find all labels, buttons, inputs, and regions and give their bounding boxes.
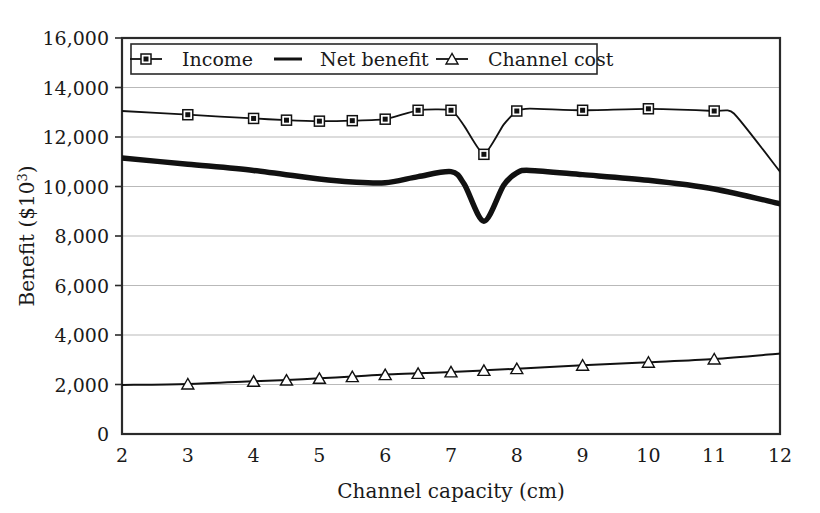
marker-square	[643, 104, 653, 114]
y-tick-label: 6,000	[55, 275, 109, 297]
marker-square-inner	[251, 116, 256, 121]
marker-square-inner	[481, 152, 486, 157]
series-channel-cost	[122, 354, 780, 389]
x-tick-label: 6	[379, 444, 391, 466]
y-tick-label: 16,000	[43, 27, 109, 49]
gridlines	[122, 38, 780, 385]
x-tick-label: 9	[577, 444, 589, 466]
marker-square-inner	[712, 109, 717, 114]
y-axis: 02,0004,0006,0008,00010,00012,00014,0001…	[43, 27, 122, 445]
marker-square-inner	[185, 112, 190, 117]
marker-square	[282, 115, 292, 125]
y-tick-label: 4,000	[55, 324, 109, 346]
y-tick-label: 10,000	[43, 176, 109, 198]
marker-square	[249, 113, 259, 123]
marker-square	[446, 105, 456, 115]
marker-square	[578, 105, 588, 115]
x-tick-label: 8	[511, 444, 523, 466]
y-tick-label: 14,000	[43, 77, 109, 99]
marker-square	[183, 110, 193, 120]
marker-square-inner	[350, 118, 355, 123]
series-net-benefit	[122, 158, 780, 221]
y-tick-label: 2,000	[55, 374, 109, 396]
marker-square	[512, 106, 522, 116]
x-tick-label: 7	[445, 444, 457, 466]
chart-figure: 02,0004,0006,0008,00010,00012,00014,0001…	[0, 0, 820, 513]
series-income-line	[122, 109, 780, 172]
marker-square-inner	[514, 109, 519, 114]
series-income	[122, 104, 780, 172]
marker-square-inner	[284, 118, 289, 123]
marker-square-inner	[416, 108, 421, 113]
legend-label: Channel cost	[488, 48, 614, 70]
marker-square-inner	[449, 108, 454, 113]
chart-legend: IncomeNet benefitChannel cost	[130, 44, 614, 74]
x-tick-label: 5	[313, 444, 325, 466]
marker-square	[314, 116, 324, 126]
x-tick-label: 10	[636, 444, 660, 466]
marker-square-inner	[317, 119, 322, 124]
marker-square-inner	[383, 117, 388, 122]
legend-label: Income	[182, 48, 253, 70]
x-tick-label: 12	[768, 444, 792, 466]
legend-label: Net benefit	[320, 48, 429, 70]
x-axis-title: Channel capacity (cm)	[337, 479, 564, 503]
x-tick-label: 4	[248, 444, 260, 466]
marker-square	[479, 149, 489, 159]
line-chart: 02,0004,0006,0008,00010,00012,00014,0001…	[0, 0, 820, 513]
marker-square	[413, 105, 423, 115]
marker-square-inner	[580, 108, 585, 113]
x-axis: 23456789101112	[116, 444, 792, 466]
x-tick-label: 11	[702, 444, 726, 466]
marker-square-inner	[144, 57, 149, 62]
marker-square	[347, 116, 357, 126]
y-axis-title: Benefit ($103)	[15, 165, 39, 306]
x-tick-label: 3	[182, 444, 194, 466]
marker-square	[141, 54, 151, 64]
y-tick-label: 8,000	[55, 225, 109, 247]
y-tick-label: 0	[97, 423, 109, 445]
y-tick-label: 12,000	[43, 126, 109, 148]
marker-square	[709, 106, 719, 116]
marker-square-inner	[646, 106, 651, 111]
series-net-benefit-line	[122, 158, 780, 221]
x-tick-label: 2	[116, 444, 128, 466]
marker-square	[380, 114, 390, 124]
